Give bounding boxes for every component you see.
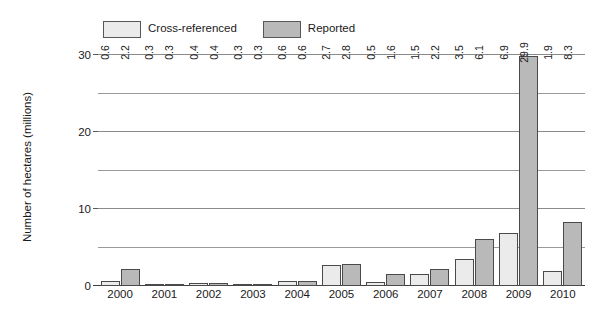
y-tick-label-30: 30 <box>78 49 91 61</box>
bars-2002: 0.40.4 <box>187 55 231 286</box>
bar-wrap-2007-cross-referenced: 1.5 <box>410 55 429 286</box>
x-tick-label-2001: 2001 <box>142 288 186 300</box>
bar-wrap-2008-reported: 6.1 <box>475 55 494 286</box>
bar-group-2003: 0.30.3 <box>231 55 275 286</box>
bar-value-label-2003-cross-referenced: 0.3 <box>232 45 243 60</box>
bar-value-label-2005-cross-referenced: 2.7 <box>321 45 332 60</box>
legend-item-reported: Reported <box>263 21 355 38</box>
bar-group-2008: 3.56.1 <box>452 55 496 286</box>
bar-wrap-2002-cross-referenced: 0.4 <box>189 55 208 286</box>
bar-2010-reported[interactable]: 8.3 <box>563 222 582 286</box>
bars-2009: 6.929.9 <box>496 55 540 286</box>
legend-label-reported: Reported <box>308 23 355 35</box>
bar-wrap-2010-reported: 8.3 <box>563 55 582 286</box>
y-axis-title: Number of hectares (millions) <box>18 42 36 292</box>
bars-2001: 0.30.3 <box>142 55 186 286</box>
bar-value-label-2002-cross-referenced: 0.4 <box>188 45 199 60</box>
bar-value-label-2010-cross-referenced: 1.9 <box>542 45 553 60</box>
bar-value-label-2006-cross-referenced: 0.5 <box>365 45 376 60</box>
bar-group-2004: 0.60.6 <box>275 55 319 286</box>
bar-2008-reported[interactable]: 6.1 <box>475 239 494 286</box>
bar-2005-reported[interactable]: 2.8 <box>342 264 361 286</box>
bar-2000-cross-referenced[interactable]: 0.6 <box>101 281 120 286</box>
bar-2006-reported[interactable]: 1.6 <box>386 274 405 286</box>
bar-wrap-2000-reported: 2.2 <box>121 55 140 286</box>
x-tick-label-2010: 2010 <box>541 288 585 300</box>
bar-2007-cross-referenced[interactable]: 1.5 <box>410 274 429 286</box>
bar-value-label-2001-cross-referenced: 0.3 <box>144 45 155 60</box>
bar-2003-reported[interactable]: 0.3 <box>253 284 272 286</box>
bar-value-label-2001-reported: 0.3 <box>164 45 175 60</box>
bar-wrap-2004-cross-referenced: 0.6 <box>278 55 297 286</box>
bar-group-2000: 0.62.2 <box>98 55 142 286</box>
legend-swatch-cross-referenced <box>103 21 141 38</box>
x-tick-label-2004: 2004 <box>275 288 319 300</box>
x-tick-label-2002: 2002 <box>187 288 231 300</box>
bars-2007: 1.52.2 <box>408 55 452 286</box>
bars-2010: 1.98.3 <box>541 55 585 286</box>
bar-wrap-2005-cross-referenced: 2.7 <box>322 55 341 286</box>
bar-2006-cross-referenced[interactable]: 0.5 <box>366 282 385 286</box>
bar-2002-reported[interactable]: 0.4 <box>209 283 228 286</box>
bar-value-label-2007-cross-referenced: 1.5 <box>409 45 420 60</box>
bar-value-label-2009-cross-referenced: 6.9 <box>498 45 509 60</box>
bar-groups: 0.62.20.30.30.40.40.30.30.60.62.72.80.51… <box>98 55 585 286</box>
bar-wrap-2010-cross-referenced: 1.9 <box>543 55 562 286</box>
bars-2006: 0.51.6 <box>364 55 408 286</box>
bar-group-2010: 1.98.3 <box>541 55 585 286</box>
bar-2009-cross-referenced[interactable]: 6.9 <box>499 233 518 286</box>
bar-2007-reported[interactable]: 2.2 <box>430 269 449 286</box>
bar-value-label-2000-reported: 2.2 <box>120 45 131 60</box>
x-tick-label-2003: 2003 <box>231 288 275 300</box>
bar-value-label-2008-reported: 6.1 <box>474 45 485 60</box>
legend-label-cross-referenced: Cross-referenced <box>148 23 237 35</box>
bar-wrap-2006-cross-referenced: 0.5 <box>366 55 385 286</box>
bar-group-2005: 2.72.8 <box>319 55 363 286</box>
bar-2001-reported[interactable]: 0.3 <box>165 284 184 286</box>
bar-value-label-2007-reported: 2.2 <box>429 45 440 60</box>
x-tick-label-2000: 2000 <box>98 288 142 300</box>
bar-wrap-2001-reported: 0.3 <box>165 55 184 286</box>
bar-2009-reported[interactable]: 29.9 <box>519 56 538 286</box>
bar-value-label-2003-reported: 0.3 <box>252 45 263 60</box>
bar-wrap-2006-reported: 1.6 <box>386 55 405 286</box>
bar-wrap-2004-reported: 0.6 <box>298 55 317 286</box>
bar-2010-cross-referenced[interactable]: 1.9 <box>543 271 562 286</box>
bar-wrap-2005-reported: 2.8 <box>342 55 361 286</box>
x-axis-labels: 2000200120022003200420052006200720082009… <box>98 288 585 300</box>
bar-value-label-2002-reported: 0.4 <box>208 45 219 60</box>
plot-area: 0102030 0.62.20.30.30.40.40.30.30.60.62.… <box>98 55 585 286</box>
bar-2000-reported[interactable]: 2.2 <box>121 269 140 286</box>
bar-2004-reported[interactable]: 0.6 <box>298 281 317 286</box>
bar-value-label-2004-cross-referenced: 0.6 <box>277 45 288 60</box>
y-tick-label-10: 10 <box>78 203 91 215</box>
bar-2005-cross-referenced[interactable]: 2.7 <box>322 265 341 286</box>
bar-2003-cross-referenced[interactable]: 0.3 <box>233 284 252 286</box>
bar-value-label-2000-cross-referenced: 0.6 <box>100 45 111 60</box>
bar-2001-cross-referenced[interactable]: 0.3 <box>145 284 164 286</box>
bar-value-label-2006-reported: 1.6 <box>385 45 396 60</box>
bar-2002-cross-referenced[interactable]: 0.4 <box>189 283 208 286</box>
x-tick-label-2008: 2008 <box>452 288 496 300</box>
bar-chart: Cross-referenced Reported Number of hect… <box>0 0 612 330</box>
x-tick-label-2005: 2005 <box>319 288 363 300</box>
bar-2004-cross-referenced[interactable]: 0.6 <box>278 281 297 286</box>
bar-group-2002: 0.40.4 <box>187 55 231 286</box>
bar-wrap-2008-cross-referenced: 3.5 <box>455 55 474 286</box>
bar-wrap-2003-cross-referenced: 0.3 <box>233 55 252 286</box>
bars-2003: 0.30.3 <box>231 55 275 286</box>
bar-value-label-2009-reported: 29.9 <box>518 42 529 62</box>
bar-group-2001: 0.30.3 <box>142 55 186 286</box>
bar-wrap-2007-reported: 2.2 <box>430 55 449 286</box>
bar-value-label-2010-reported: 8.3 <box>562 45 573 60</box>
bar-2008-cross-referenced[interactable]: 3.5 <box>455 259 474 286</box>
bar-value-label-2005-reported: 2.8 <box>341 45 352 60</box>
bar-wrap-2009-cross-referenced: 6.9 <box>499 55 518 286</box>
y-tick-label-20: 20 <box>78 126 91 138</box>
chart-legend: Cross-referenced Reported <box>103 18 355 40</box>
bar-wrap-2001-cross-referenced: 0.3 <box>145 55 164 286</box>
bar-group-2007: 1.52.2 <box>408 55 452 286</box>
bar-wrap-2009-reported: 29.9 <box>519 55 538 286</box>
legend-swatch-reported <box>263 21 301 38</box>
bars-2005: 2.72.8 <box>319 55 363 286</box>
